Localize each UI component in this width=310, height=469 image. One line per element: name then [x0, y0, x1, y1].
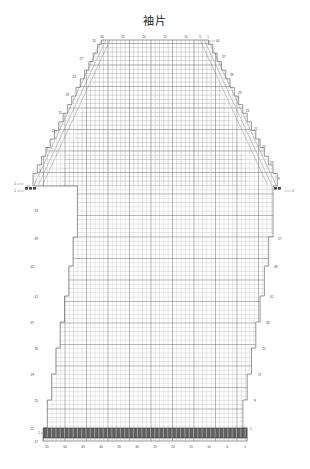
bottom-col-label: 5 [226, 445, 228, 449]
bottom-col-label: 25 [153, 445, 157, 449]
right-body-row-label: 41 [270, 295, 274, 299]
sleeve-chart-canvas: 30 25 20 15 10 5 1 40 31 27 23 19 15 11 … [0, 0, 310, 469]
right-body-row-label: 9 [254, 399, 256, 403]
knitting-chart-root: 袖片 [0, 0, 310, 469]
top-col-label: 1 [207, 35, 209, 39]
bottom-col-label: 50 [63, 445, 67, 449]
left-body-row-labels: 57 53 49 45 41 37 33 29 25 21 17 [27, 185, 39, 444]
left-row-label: 11 [52, 129, 55, 133]
right-row-label: 9 [278, 177, 280, 181]
left-row-label: 31 [93, 39, 97, 43]
left-row-label: 23 [73, 75, 77, 79]
right-row-label: 17 [262, 145, 266, 149]
right-body-row-label: 1 [250, 427, 252, 431]
left-body-row-label: 25 [35, 399, 39, 403]
cap-marker-label: 1 [14, 189, 16, 193]
bottom-col-label: 45 [81, 445, 85, 449]
bottom-col-label: 40 [99, 445, 103, 449]
top-column-labels: 30 25 20 15 10 5 1 [100, 35, 209, 39]
top-col-label: 30 [100, 35, 104, 39]
right-row-label: 37 [222, 55, 226, 59]
cap-top-row-label: 40 [216, 39, 220, 43]
right-row-label: 25 [246, 109, 250, 113]
top-col-label: 10 [184, 35, 188, 39]
cap-top-row-marker: 40 [209, 39, 220, 43]
bottom-col-label: 20 [171, 445, 175, 449]
bottom-col-label: 10 [207, 445, 211, 449]
top-col-label: 20 [142, 35, 146, 39]
top-col-label: 25 [121, 35, 125, 39]
right-body-row-label: 17 [258, 373, 262, 377]
right-row-label: 21 [254, 127, 258, 131]
bottom-col-label: 30 [135, 445, 139, 449]
bottom-col-label: 15 [189, 445, 193, 449]
left-body-row-label: 53 [35, 209, 39, 213]
left-row-label: 15 [59, 111, 63, 115]
left-row-label: 27 [80, 57, 84, 61]
bottom-col-label: 1 [244, 445, 246, 449]
left-row-label: 3 [39, 169, 41, 173]
bottom-column-labels: 55 50 45 40 35 30 25 20 15 10 5 1 [45, 445, 246, 449]
right-body-row-label: 49 [274, 265, 278, 269]
left-row-label: 19 [66, 93, 70, 97]
cuff-ribbing-band [43, 428, 247, 438]
left-body-row-label: 33 [35, 347, 39, 351]
left-body-row-label: 41 [35, 295, 39, 299]
top-col-label: 15 [163, 35, 167, 39]
left-body-row-label: 21 [31, 427, 35, 431]
right-width-markers: 1 [274, 187, 294, 193]
left-body-row-label: 29 [31, 373, 35, 377]
left-body-row-label: 37 [31, 321, 35, 325]
right-body-row-label: 25 [262, 347, 266, 351]
right-row-label: 29 [238, 91, 242, 95]
right-body-row-label: 33 [266, 321, 270, 325]
right-body-row-label: 57 [278, 237, 282, 241]
left-row-label: 7 [46, 147, 48, 151]
right-row-label: 33 [230, 73, 234, 77]
cuff-row-label: 1 [38, 431, 40, 435]
left-body-row-label: 49 [35, 237, 39, 241]
cap-marker-label: 1 [292, 189, 294, 193]
left-body-row-label: 45 [31, 265, 35, 269]
top-col-label: 5 [199, 35, 201, 39]
left-body-row-label: 17 [35, 440, 39, 444]
bottom-col-label: 35 [117, 445, 121, 449]
cap-marker-label: 1 [14, 182, 16, 186]
bottom-col-label: 55 [45, 445, 49, 449]
right-row-label: 13 [270, 161, 274, 165]
